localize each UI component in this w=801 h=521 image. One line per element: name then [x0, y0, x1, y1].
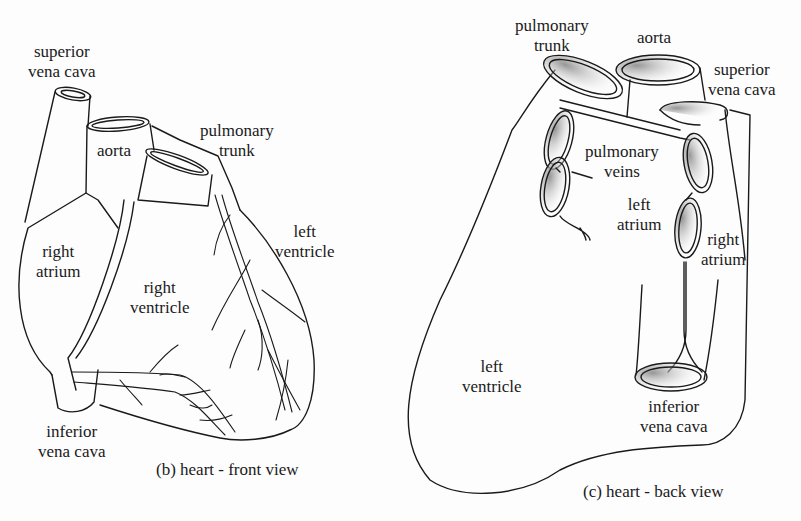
heart-drawings [0, 0, 801, 521]
back-label-superior-vena-cava: superior vena cava [708, 60, 775, 100]
back-label-right-atrium: right atrium [701, 230, 745, 270]
front-label-superior-vena-cava: superior vena cava [28, 42, 95, 82]
front-label-inferior-vena-cava: inferior vena cava [38, 422, 105, 462]
heart-diagram: superior vena cava aorta pulmonary trunk… [0, 0, 801, 521]
front-label-right-atrium: right atrium [36, 242, 80, 282]
front-label-right-ventricle: right ventricle [130, 278, 189, 318]
back-label-inferior-vena-cava: inferior vena cava [640, 397, 707, 437]
back-label-pulmonary-trunk: pulmonary trunk [515, 16, 589, 56]
back-label-pulmonary-veins: pulmonary veins [585, 142, 659, 182]
front-label-left-ventricle: left ventricle [275, 222, 334, 262]
back-label-aorta: aorta [637, 28, 671, 48]
back-view-caption: (c) heart - back view [583, 482, 724, 502]
front-label-aorta: aorta [97, 141, 131, 161]
front-label-pulmonary-trunk: pulmonary trunk [200, 121, 274, 161]
back-label-left-ventricle: left ventricle [462, 357, 521, 397]
back-label-left-atrium: left atrium [617, 195, 661, 235]
front-view-caption: (b) heart - front view [156, 460, 299, 480]
